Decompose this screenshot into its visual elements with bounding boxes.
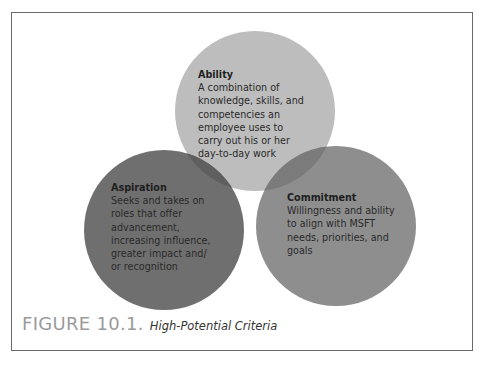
aspiration-desc-line: greater impact and/ xyxy=(111,247,211,260)
commitment-desc-line: needs, priorities, and xyxy=(287,231,395,244)
commitment-title: Commitment xyxy=(287,191,395,204)
ability-desc-line: employee uses to xyxy=(198,121,304,134)
figure-number: FIGURE 10.1. xyxy=(22,313,144,334)
aspiration-title: Aspiration xyxy=(111,181,211,194)
ability-desc-line: day-to-day work xyxy=(198,147,304,160)
aspiration-desc-line: roles that offer xyxy=(111,207,211,220)
ability-title: Ability xyxy=(198,68,304,81)
ability-desc-line: carry out his or her xyxy=(198,134,304,147)
aspiration-desc-line: Seeks and takes on xyxy=(111,194,211,207)
figure-title: High-Potential Criteria xyxy=(150,319,278,333)
aspiration-desc-line: or recognition xyxy=(111,260,211,273)
ability-desc-line: A combination of xyxy=(198,81,304,94)
ability-desc-line: knowledge, skills, and xyxy=(198,94,304,107)
ability-label: Ability A combination of knowledge, skil… xyxy=(198,68,304,160)
figure-caption: FIGURE 10.1.High-Potential Criteria xyxy=(22,313,277,334)
aspiration-label: Aspiration Seeks and takes on roles that… xyxy=(111,181,211,273)
commitment-desc-line: Willingness and ability xyxy=(287,204,395,217)
aspiration-desc-line: increasing influence, xyxy=(111,234,211,247)
commitment-desc-line: goals xyxy=(287,244,395,257)
commitment-label: Commitment Willingness and ability to al… xyxy=(287,191,395,257)
commitment-desc-line: to align with MSFT xyxy=(287,217,395,230)
ability-desc-line: competencies an xyxy=(198,108,304,121)
aspiration-desc-line: advancement, xyxy=(111,221,211,234)
